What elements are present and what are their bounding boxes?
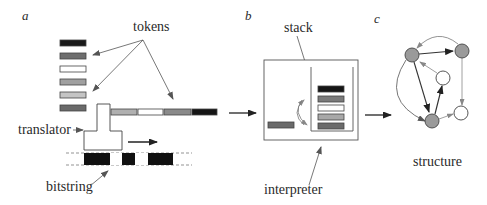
held-token bbox=[268, 122, 294, 128]
node-empty bbox=[454, 106, 468, 120]
edge-arrow-icon bbox=[439, 114, 453, 119]
diagram-canvas: a tokens translator bbox=[0, 0, 487, 205]
token-white bbox=[60, 66, 86, 72]
interpreter-pointer-arrow-icon bbox=[309, 147, 321, 185]
stack-token-4 bbox=[318, 114, 344, 120]
panel-c-label: c bbox=[374, 11, 380, 26]
bitstring-label: bitstring bbox=[46, 179, 93, 194]
node-filled bbox=[425, 114, 439, 128]
node-filled bbox=[455, 44, 469, 58]
interpreter-label: interpreter bbox=[264, 182, 323, 197]
panel-a-label: a bbox=[22, 8, 29, 23]
token-gray bbox=[60, 105, 86, 111]
bit-0 bbox=[135, 153, 148, 165]
token-black bbox=[60, 40, 86, 46]
panel-a: a tokens translator bbox=[18, 8, 256, 194]
stack-token-2 bbox=[318, 96, 344, 102]
node-empty bbox=[436, 71, 450, 85]
edge-arrow-icon bbox=[419, 51, 453, 54]
edge-arrow-icon bbox=[435, 86, 442, 114]
edge-arrow-icon bbox=[414, 62, 429, 112]
token-mid-gray bbox=[60, 79, 86, 85]
token-palette bbox=[60, 40, 86, 111]
bit-1 bbox=[84, 153, 110, 165]
token-dark-gray bbox=[60, 53, 86, 59]
structure-label: structure bbox=[413, 154, 462, 169]
bit-0 bbox=[110, 153, 122, 165]
edge-arrow-icon bbox=[396, 60, 425, 121]
row-token-3 bbox=[164, 109, 191, 115]
row-token-1 bbox=[111, 109, 137, 115]
bitstring-pointer-arrow-icon bbox=[90, 171, 108, 186]
node-filled bbox=[405, 48, 419, 62]
arrow-icon bbox=[143, 40, 173, 99]
graph-edges bbox=[396, 36, 462, 121]
tokens-pointer-arrows bbox=[93, 40, 173, 99]
row-token-4 bbox=[192, 109, 217, 115]
tokens-label: tokens bbox=[133, 19, 170, 34]
edge-arrow-icon bbox=[420, 62, 437, 73]
bit-1 bbox=[122, 153, 135, 165]
edge-arrow-icon bbox=[417, 36, 458, 48]
token-light-gray bbox=[60, 92, 86, 98]
panel-b: b stack interpreter bbox=[245, 8, 391, 197]
stack-token-5 bbox=[318, 123, 344, 129]
stack-token-3 bbox=[318, 105, 344, 111]
bitstring bbox=[66, 153, 192, 165]
panel-b-label: b bbox=[245, 8, 252, 23]
stack-label: stack bbox=[284, 20, 313, 35]
bit-1 bbox=[148, 153, 173, 165]
translator-label: translator bbox=[18, 122, 71, 137]
token-row bbox=[111, 109, 217, 115]
panel-c: c structure bbox=[374, 11, 469, 169]
row-token-2 bbox=[138, 109, 163, 115]
stack-token-1 bbox=[318, 86, 344, 92]
